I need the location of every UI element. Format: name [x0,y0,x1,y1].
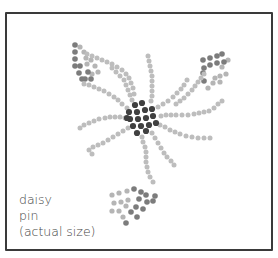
petal-down-bead [140,135,145,140]
petal-upper-left-bead [120,102,125,107]
petal-up-bead [150,74,155,79]
petal-left-bead [82,123,87,128]
petal-up-right-arc-bead [182,96,187,101]
petal-down-right-bead [169,159,174,164]
petal-lower-left-bead [126,126,131,131]
petal-right-bead [216,102,221,107]
petal-upper-left-bead [107,92,112,97]
petal-down-right-bead [150,131,155,136]
petal-upper-left-bead [102,89,107,94]
petal-lower-right-bead [184,134,189,139]
petal-top-left-arc-bead [124,72,129,77]
leaf-bottom-bead [150,198,156,204]
leaf-top-right-bead [207,62,213,68]
petal-lower-right-bead [190,135,195,140]
petal-left-bead [118,115,123,120]
petal-down-bead [148,175,153,180]
petal-up-right-arc-bead [174,102,179,107]
petal-up-right-arc-bead [199,76,204,81]
leaf-bottom-bead [152,193,158,199]
petal-top-left-arc-bead [90,54,95,59]
leaf-top-left-bead [72,56,78,62]
petal-right-bead [169,113,174,118]
leaf-top-right-bead [214,60,220,66]
petal-top-left-arc-bead [100,58,105,63]
petal-left-bead [113,115,118,120]
petal-lower-left-bead [91,145,96,150]
center-bead [124,115,130,121]
petal-lower-right-bead [178,132,183,137]
leaf-bottom-bead [131,186,137,192]
petal-right-bead [164,113,169,118]
petal-lower-left-bead [116,132,121,137]
petal-up-right-bead [161,102,166,107]
petal-lower-right-bead [173,130,178,135]
leaf-bottom-bead [134,214,140,220]
leaf-bottom-bead [118,199,123,204]
petal-top-left-arc-bead [132,92,137,97]
leaf-top-left-bead [72,42,78,48]
petal-left-bead [78,126,83,131]
petal-down-bead [141,140,146,145]
petal-up-right-arc-bead [186,92,191,97]
petal-left-bead [87,121,92,126]
leaf-bottom-bead [120,214,125,219]
petal-up-right-arc-bead [196,80,201,85]
leaf-top-right-bead [223,71,228,76]
petal-lower-left-bead [106,138,111,143]
petal-right-bead [159,114,164,119]
leaf-top-right-bead [217,73,222,78]
center-bead [138,123,144,129]
leaf-top-right-bead [207,55,213,61]
petal-up-bead [147,59,152,64]
petal-lower-right-bead [202,136,207,141]
petal-upper-left-bead [116,98,121,103]
leaf-top-right-bead [217,79,222,84]
petal-left-bead [103,116,108,121]
petal-lower-right-bead [208,136,213,141]
petal-down-bead [145,165,150,170]
petal-upper-left-bead [112,95,117,100]
leaf-bottom-bead [124,188,129,193]
center-bead [150,113,156,119]
center-bead [134,109,140,115]
petal-lower-right-bead [168,128,173,133]
petal-top-left-arc-bead [131,86,136,91]
leaf-bottom-bead [140,206,146,212]
leaf-top-left-bead [72,49,78,55]
petal-lower-left-bead [90,152,95,157]
petal-lower-left-bead [101,141,106,146]
petal-down-right-bead [153,136,158,141]
leaf-top-right-bead [212,75,217,80]
center-bead [135,116,141,122]
petal-down-right-bead [156,141,161,146]
petal-up-bead [150,89,155,94]
petal-left-bead [97,117,102,122]
petal-up-right-bead [175,91,180,96]
petal-left-bead [108,115,113,120]
petal-up-left-bead [114,70,119,75]
petal-down-right-bead [159,146,164,151]
caption-line-size: (actual size) [19,224,95,240]
leaf-top-right-bead [200,57,206,63]
center-bead [149,106,155,112]
leaf-top-right-bead [201,65,207,71]
petal-up-right-bead [185,78,190,83]
caption-line-pin: pin [19,208,95,224]
petal-lower-left-bead [121,129,126,134]
leaf-top-right-bead [205,85,210,90]
center-bead [146,122,152,128]
petal-up-right-bead [171,95,176,100]
petal-up-right-bead [166,99,171,104]
leaf-top-right-bead [219,51,225,57]
leaf-top-left-bead [84,61,89,66]
petal-up-bead [150,79,155,84]
petal-up-left-bead [118,74,123,79]
leaf-bottom-bead [133,204,139,210]
petal-down-right-bead [172,163,177,168]
petal-upper-left-bead [82,82,87,87]
petal-up-bead [148,64,153,69]
petal-right-bead [212,106,217,111]
petal-lower-right-bead [163,125,168,130]
petal-up-right-bead [156,105,161,110]
